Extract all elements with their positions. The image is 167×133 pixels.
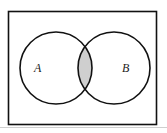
venn-diagram: A B bbox=[0, 0, 167, 133]
set-b-label: B bbox=[122, 61, 130, 75]
bottom-divider bbox=[0, 127, 167, 128]
set-a-label: A bbox=[33, 61, 42, 75]
